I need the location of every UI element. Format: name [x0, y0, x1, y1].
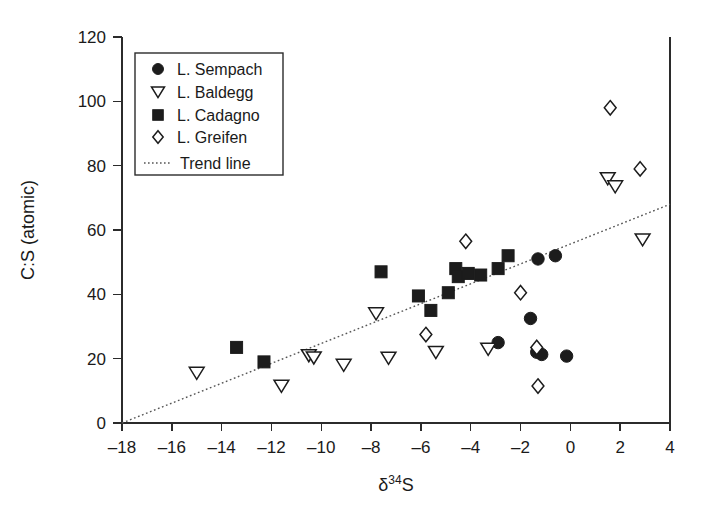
- marker-open-diamond: [634, 162, 646, 176]
- marker-filled-square: [475, 269, 487, 281]
- y-tick-label: 80: [87, 157, 106, 176]
- x-tick-label: –8: [362, 438, 381, 457]
- x-tick-label: –2: [511, 438, 530, 457]
- x-tick-label: –14: [207, 438, 235, 457]
- scatter-plot-figure: –18–16–14–12–10–8–6–4–202402040608010012…: [0, 0, 701, 515]
- legend-item-label: L. Cadagno: [177, 107, 260, 124]
- marker-open-diamond: [532, 379, 544, 393]
- trend-line-group: [122, 204, 670, 423]
- x-tick-label: –6: [411, 438, 430, 457]
- marker-filled-circle: [549, 250, 561, 262]
- y-tick-label: 0: [97, 414, 106, 433]
- marker-open-triangle: [381, 352, 396, 364]
- marker-filled-square: [258, 356, 270, 368]
- marker-open-diamond: [604, 101, 616, 115]
- marker-open-diamond: [515, 286, 527, 300]
- x-axis-title-superscript: 34: [388, 473, 402, 487]
- legend-group: L. SempachL. BaldeggL. CadagnoL. Greifen…: [135, 53, 283, 175]
- marker-filled-square: [231, 341, 243, 353]
- marker-open-triangle: [189, 367, 204, 379]
- marker-open-triangle: [635, 234, 650, 246]
- marker-filled-circle: [153, 64, 164, 75]
- marker-open-diamond: [420, 327, 432, 341]
- x-tick-label: 4: [665, 438, 674, 457]
- x-tick-label: 2: [615, 438, 624, 457]
- marker-filled-circle: [560, 350, 572, 362]
- series-l-greifen: [420, 101, 646, 394]
- trend-line: [122, 204, 670, 423]
- marker-filled-square: [425, 304, 437, 316]
- x-tick-label: –12: [257, 438, 285, 457]
- y-tick-label: 20: [87, 350, 106, 369]
- y-axis-title: C:S (atomic): [18, 180, 38, 280]
- x-tick-label: 0: [566, 438, 575, 457]
- legend-item-label: L. Greifen: [177, 129, 247, 146]
- marker-open-triangle: [481, 343, 496, 355]
- x-tick-label: –10: [307, 438, 335, 457]
- marker-open-triangle: [428, 346, 443, 358]
- x-axis-title: δ34S: [378, 473, 413, 495]
- marker-open-triangle: [369, 308, 384, 320]
- x-tick-label: –16: [158, 438, 186, 457]
- marker-filled-square: [462, 267, 474, 279]
- y-tick-label: 40: [87, 285, 106, 304]
- marker-filled-circle: [532, 253, 544, 265]
- y-tick-label: 60: [87, 221, 106, 240]
- marker-open-triangle: [608, 181, 623, 193]
- marker-filled-square: [153, 110, 164, 121]
- legend-item-label: L. Sempach: [177, 61, 262, 78]
- marker-open-triangle: [336, 359, 351, 371]
- y-tick-label: 100: [78, 92, 106, 111]
- marker-filled-square: [442, 287, 454, 299]
- x-tick-label: –4: [461, 438, 480, 457]
- marker-open-triangle: [274, 380, 289, 392]
- marker-filled-circle: [524, 312, 536, 324]
- marker-filled-square: [375, 266, 387, 278]
- marker-open-diamond: [460, 234, 472, 248]
- marker-filled-square: [412, 290, 424, 302]
- y-tick-label: 120: [78, 28, 106, 47]
- marker-filled-square: [492, 263, 504, 275]
- plot-canvas: –18–16–14–12–10–8–6–4–202402040608010012…: [0, 0, 701, 515]
- legend-trend-label: Trend line: [180, 155, 251, 172]
- marker-filled-square: [502, 250, 514, 262]
- legend-item-label: L. Baldegg: [177, 84, 254, 101]
- axis-labels-group: –18–16–14–12–10–8–6–4–202402040608010012…: [18, 28, 675, 495]
- x-tick-label: –18: [108, 438, 136, 457]
